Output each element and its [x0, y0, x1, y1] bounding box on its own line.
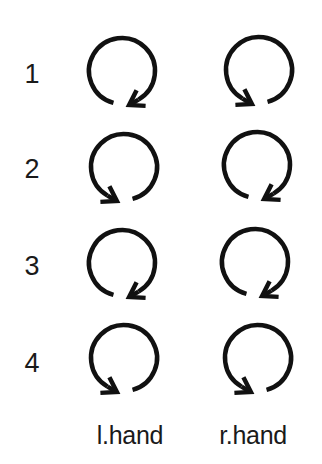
rotation-arrow-counterclockwise-icon [91, 325, 157, 393]
rotation-diagram [0, 0, 322, 464]
column-label-left-hand: l.hand [75, 421, 185, 449]
column-label-right-hand: r.hand [198, 421, 308, 449]
rotation-arrow-clockwise-icon [224, 132, 290, 200]
rotation-arrow-counterclockwise-icon [91, 134, 157, 202]
rotation-arrow-clockwise-icon [89, 230, 155, 298]
rotation-arrow-counterclockwise-icon [225, 325, 291, 393]
rotation-arrow-clockwise-icon [89, 38, 155, 106]
rotation-arrow-counterclockwise-icon [226, 37, 292, 105]
rotation-arrow-clockwise-icon [222, 229, 288, 297]
